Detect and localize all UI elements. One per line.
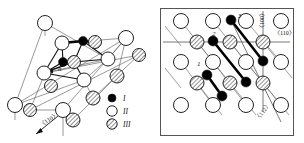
atom-type-II	[174, 55, 189, 70]
legend-item-III-label: III	[122, 120, 131, 129]
legend-item-III-symbol	[107, 119, 117, 129]
atom-type-III	[133, 49, 146, 62]
atom-type-II	[274, 98, 289, 113]
atom-type-II	[274, 14, 289, 29]
figure-root: h〈110〉	[0, 0, 304, 143]
direction-100-label: 〈100〉	[259, 10, 265, 31]
direction-110-label: 〈110〉	[274, 30, 295, 36]
atom-type-II	[274, 55, 289, 70]
atom-type-II	[239, 55, 254, 70]
atom-type-III	[190, 35, 204, 49]
defect-label-2: 2	[212, 30, 216, 38]
atom-type-II	[206, 55, 221, 70]
legend-item-I-symbol	[108, 94, 116, 102]
atom-type-I	[79, 37, 88, 46]
atom-type-II	[174, 14, 189, 29]
legend-item-I-label: I	[122, 94, 126, 103]
atom-type-II	[37, 66, 51, 80]
h-label: h	[58, 65, 62, 73]
atom-type-III	[66, 113, 80, 127]
atom-type-II	[206, 98, 221, 113]
legend-item-II-label: II	[122, 107, 128, 116]
atom-type-II	[239, 98, 254, 113]
atom-type-III	[190, 76, 204, 90]
atom-type-III	[86, 91, 100, 105]
atom-type-III	[24, 104, 37, 117]
defect-label-1: 1	[197, 60, 201, 68]
atom-type-I	[226, 15, 236, 25]
lattice-figure-svg: h〈110〉	[0, 0, 304, 143]
atom-type-III	[68, 56, 81, 69]
atom-type-III	[45, 80, 58, 93]
atom-type-II	[174, 98, 189, 113]
atom-type-II	[119, 31, 134, 46]
legend-item-II-symbol	[107, 106, 117, 116]
atom-type-III	[256, 35, 270, 49]
atom-type-II	[77, 73, 91, 87]
atom-type-II	[206, 14, 221, 29]
atom-type-I	[241, 77, 251, 87]
atom-type-III	[256, 76, 270, 90]
atom-type-III	[110, 69, 124, 83]
atom-type-III	[223, 76, 237, 90]
atom-type-II	[101, 52, 115, 66]
atom-type-III	[223, 35, 237, 49]
atom-type-III	[89, 36, 102, 49]
atom-type-II	[8, 98, 23, 113]
defect-label-3: 3	[237, 12, 242, 20]
atom-type-I	[202, 70, 212, 80]
atom-type-II	[38, 16, 53, 31]
atom-type-I	[258, 56, 268, 66]
atom-type-II	[55, 36, 69, 50]
